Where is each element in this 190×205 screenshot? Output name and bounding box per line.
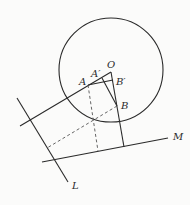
label-M: M: [172, 131, 184, 142]
label-A: A: [78, 76, 86, 87]
circle-O: [59, 18, 163, 122]
line-M: [42, 138, 168, 162]
diagram-svg: O A A′ B′ B L M: [0, 0, 190, 205]
label-A-prime: A′: [90, 68, 101, 79]
geometry-diagram: O A A′ B′ B L M: [0, 0, 190, 205]
segment-A-Bprime: [88, 80, 113, 85]
label-B-prime: B′: [115, 76, 126, 87]
label-O: O: [107, 59, 115, 70]
label-B: B: [120, 100, 128, 111]
label-L: L: [71, 180, 79, 191]
dashed-B-to-L: [47, 106, 117, 148]
